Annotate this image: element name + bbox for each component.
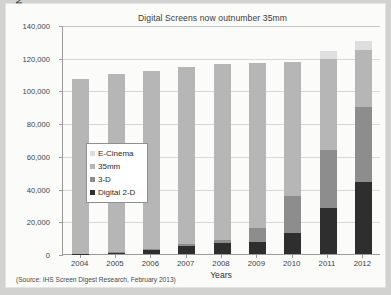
bar-segment[interactable] [320, 208, 337, 254]
x-axis-tick [327, 255, 328, 258]
bar-segment[interactable] [284, 62, 301, 196]
bar-segment[interactable] [355, 182, 372, 254]
bar-segment[interactable] [320, 51, 337, 59]
x-axis-label: 2009 [236, 259, 276, 268]
x-axis-label: 2012 [342, 259, 382, 268]
x-axis-tick [80, 255, 81, 258]
y-axis-tick [59, 59, 63, 60]
gridline [63, 26, 380, 27]
legend-swatch-icon [90, 190, 95, 195]
bar-column[interactable] [355, 41, 372, 254]
x-axis-tick [362, 255, 363, 258]
bar-segment[interactable] [355, 41, 372, 50]
bar-segment[interactable] [284, 233, 301, 254]
y-axis-label: 0 [6, 251, 50, 260]
legend-item[interactable]: E-Cinema [90, 147, 144, 160]
legend-item[interactable]: 3-D [90, 173, 144, 186]
legend-swatch-icon [90, 164, 95, 169]
chart-legend: E-Cinema35mm3-DDigital 2-D [86, 143, 148, 203]
y-axis-tick [59, 255, 63, 256]
legend-label: 3-D [98, 175, 111, 184]
x-axis-label: 2007 [166, 259, 206, 268]
bar-column[interactable] [214, 64, 231, 254]
bar-segment[interactable] [249, 228, 266, 241]
y-axis-label: 100,000 [6, 87, 50, 96]
legend-swatch-icon [90, 151, 95, 156]
chart-card: Digital Screens now outnumber 35mm Numbe… [6, 4, 385, 287]
x-axis-tick [256, 255, 257, 258]
plot-area [62, 26, 380, 255]
bar-segment[interactable] [143, 250, 160, 254]
legend-item[interactable]: Digital 2-D [90, 186, 144, 199]
y-axis-label: 80,000 [6, 120, 50, 129]
x-axis-label: 2006 [130, 259, 170, 268]
legend-label: Digital 2-D [98, 188, 135, 197]
bar-column[interactable] [178, 67, 195, 254]
bar-segment[interactable] [178, 67, 195, 244]
y-axis-label: 120,000 [6, 54, 50, 63]
bar-segment[interactable] [284, 196, 301, 232]
bar-segment[interactable] [355, 107, 372, 182]
bar-segment[interactable] [320, 59, 337, 150]
chart-page: Digital Screens now outnumber 35mm Numbe… [0, 0, 391, 295]
bar-column[interactable] [320, 51, 337, 254]
x-axis-label: 2008 [201, 259, 241, 268]
y-axis-label: 40,000 [6, 185, 50, 194]
bar-segment[interactable] [214, 243, 231, 254]
y-axis-tick [59, 222, 63, 223]
legend-label: 35mm [98, 162, 120, 171]
y-axis-tick [59, 124, 63, 125]
x-axis-tick [292, 255, 293, 258]
legend-item[interactable]: 35mm [90, 160, 144, 173]
legend-label: E-Cinema [98, 149, 134, 158]
x-axis-label: 2011 [307, 259, 347, 268]
chart-title: Digital Screens now outnumber 35mm [6, 13, 385, 23]
bar-segment[interactable] [108, 253, 125, 254]
bar-segment[interactable] [178, 246, 195, 255]
bar-segment[interactable] [249, 63, 266, 228]
y-axis-label: 20,000 [6, 218, 50, 227]
x-axis-tick [221, 255, 222, 258]
legend-swatch-icon [90, 177, 95, 182]
x-axis-label: 2004 [60, 259, 100, 268]
y-axis-tick [59, 157, 63, 158]
bar-segment[interactable] [249, 242, 266, 254]
y-axis-label: 60,000 [6, 152, 50, 161]
bar-segment[interactable] [355, 50, 372, 107]
y-axis-tick [59, 26, 63, 27]
x-axis-tick [150, 255, 151, 258]
y-axis-tick [59, 91, 63, 92]
x-axis-tick [186, 255, 187, 258]
source-note: (Source: IHS Screen Digest Research, Feb… [16, 276, 176, 283]
x-axis-tick [115, 255, 116, 258]
bar-column[interactable] [284, 62, 301, 254]
bar-column[interactable] [249, 63, 266, 254]
y-axis-label: 140,000 [6, 22, 50, 31]
x-axis-label: 2005 [95, 259, 135, 268]
y-axis-tick [59, 190, 63, 191]
bar-segment[interactable] [214, 64, 231, 240]
x-axis-label: 2010 [272, 259, 312, 268]
bar-segment[interactable] [320, 150, 337, 208]
